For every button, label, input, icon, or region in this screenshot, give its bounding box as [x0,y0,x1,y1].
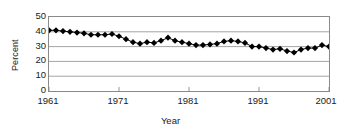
y-axis-title: Percent [8,22,22,88]
x-tick-2001: 2001 [306,95,341,106]
line-chart: Percent 50 40 30 20 10 0 1961 1971 1981 … [0,0,341,138]
y-tick-20: 20 [24,55,46,65]
x-tick-1961: 1961 [28,95,68,106]
y-tick-30: 30 [24,41,46,51]
y-tick-40: 40 [24,26,46,36]
x-tick-1981: 1981 [168,95,208,106]
x-tick-1971: 1971 [98,95,138,106]
x-tick-marks [49,87,329,91]
y-tick-10: 10 [24,70,46,80]
x-tick-1991: 1991 [238,95,278,106]
y-tick-0: 0 [24,85,46,95]
series-canvas [49,17,329,91]
y-tick-50: 50 [24,11,46,21]
x-axis-title: Year [0,115,341,126]
plot-area [48,16,330,92]
